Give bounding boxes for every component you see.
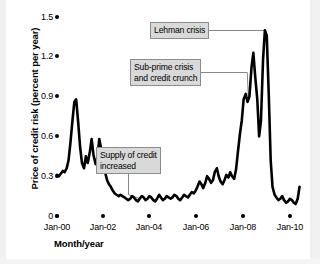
x-tick-label-jan-10: Jan-10	[270, 222, 310, 232]
x-tick-label-jan-04: Jan-04	[129, 222, 169, 232]
credit-risk-chart-figure: Price of credit risk (percent per year) …	[0, 0, 320, 264]
annotation-supply-line1: Supply of credit	[100, 150, 157, 160]
annotation-subprime-line1: Sub-prime crisis	[134, 62, 193, 72]
y-tick-dot-0-3	[55, 174, 59, 178]
x-tick-dot-jan-02	[101, 214, 105, 218]
x-tick-label-jan-00: Jan-00	[37, 222, 77, 232]
x-axis-title: Month/year	[54, 238, 104, 249]
y-tick-label-0-3: 0.3	[27, 171, 53, 181]
annotation-supply-line2: increased	[100, 161, 136, 171]
y-tick-dot-0-9	[55, 94, 59, 98]
annotation-subprime-line2: and credit crunch	[134, 73, 197, 83]
x-tick-label-jan-02: Jan-02	[83, 222, 123, 232]
y-tick-dot-1-2	[55, 54, 59, 58]
annotation-lehman-crisis: Lehman crisis	[150, 22, 209, 39]
data-series-line	[57, 30, 300, 204]
y-tick-label-0-6: 0.6	[27, 131, 53, 141]
y-tick-label-0: 0	[27, 211, 53, 221]
x-tick-dot-jan-10	[288, 214, 292, 218]
y-tick-label-0-9: 0.9	[27, 91, 53, 101]
x-tick-dot-jan-00	[55, 214, 59, 218]
x-tick-dot-jan-06	[194, 214, 198, 218]
x-tick-label-jan-08: Jan-08	[223, 222, 263, 232]
y-tick-dot-1-5	[55, 15, 59, 19]
x-tick-dot-jan-08	[241, 214, 245, 218]
y-tick-label-1-5: 1.5	[27, 12, 53, 22]
annotation-supply-of-credit: Supply of creditincreased	[96, 147, 161, 174]
y-tick-dot-0-6	[55, 134, 59, 138]
y-tick-label-1-2: 1.2	[27, 51, 53, 61]
x-tick-label-jan-06: Jan-06	[176, 222, 216, 232]
x-tick-dot-jan-04	[147, 214, 151, 218]
annotation-subprime-crisis: Sub-prime crisisand credit crunch	[130, 59, 201, 86]
